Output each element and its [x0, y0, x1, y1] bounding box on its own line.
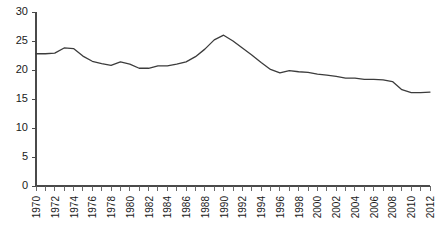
x-tick-label: 2012: [425, 196, 436, 219]
y-tick-label: 5: [22, 150, 28, 162]
y-tick-label: 25: [16, 34, 28, 46]
x-tick-label: 1988: [200, 196, 211, 219]
x-tick-label: 2004: [350, 196, 361, 219]
y-tick-label: 15: [16, 92, 28, 104]
x-tick-label: 1994: [256, 196, 267, 219]
x-tick-label: 1972: [50, 196, 61, 219]
x-tick-label: 2002: [331, 196, 342, 219]
x-tick-label: 2006: [369, 196, 380, 219]
x-tick-label: 1982: [144, 196, 155, 219]
x-tick-label: 1992: [237, 196, 248, 219]
y-tick-label: 10: [16, 121, 28, 133]
x-tick-label: 1976: [87, 196, 98, 219]
chart-canvas: 051015202530 197019721974197619781980198…: [0, 0, 442, 237]
x-tick-label: 2008: [387, 196, 398, 219]
x-tick-label: 1998: [294, 196, 305, 219]
line-chart: 051015202530 197019721974197619781980198…: [0, 0, 442, 237]
x-tick-label: 1970: [31, 196, 42, 219]
x-tick-label: 2000: [312, 196, 323, 219]
data-series-line: [36, 35, 430, 92]
x-tick-label: 1978: [106, 196, 117, 219]
x-tick-label: 1990: [219, 196, 230, 219]
x-tick-group: 1970197219741976197819801982198419861988…: [31, 186, 436, 218]
x-tick-label: 1986: [181, 196, 192, 219]
y-tick-label: 20: [16, 63, 28, 75]
x-tick-label: 1996: [275, 196, 286, 219]
x-tick-label: 1980: [125, 196, 136, 219]
y-tick-label: 0: [22, 179, 28, 191]
y-tick-group: 051015202530: [16, 5, 36, 191]
y-axis: 051015202530: [16, 5, 36, 191]
x-tick-label: 1984: [162, 196, 173, 219]
x-tick-label: 2010: [406, 196, 417, 219]
x-tick-label: 1974: [69, 196, 80, 219]
y-tick-label: 30: [16, 5, 28, 17]
plot-area: [36, 35, 430, 92]
x-axis: 1970197219741976197819801982198419861988…: [31, 186, 436, 218]
